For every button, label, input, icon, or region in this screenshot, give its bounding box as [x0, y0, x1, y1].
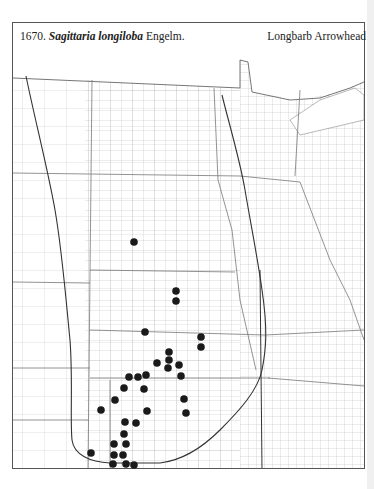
- occurrence-dot: [111, 396, 119, 404]
- distribution-map: [0, 0, 374, 489]
- occurrence-dot: [122, 460, 130, 468]
- occurrence-dot: [143, 407, 151, 415]
- occurrence-dot: [142, 371, 150, 379]
- occurrence-dot: [180, 395, 188, 403]
- occurrence-dot: [172, 297, 180, 305]
- occurrence-dot: [109, 460, 117, 468]
- occurrence-dot: [164, 364, 172, 372]
- occurrence-dot: [119, 451, 127, 459]
- occurrence-dot: [110, 451, 118, 459]
- occurrence-dot: [110, 440, 118, 448]
- occurrence-dot: [97, 406, 105, 414]
- occurrence-dot: [122, 440, 130, 448]
- occurrence-dot: [182, 409, 190, 417]
- occurrence-dot: [140, 385, 148, 393]
- page-edge: [367, 0, 374, 489]
- occurrence-dot: [120, 384, 128, 392]
- map-layers: [13, 60, 364, 470]
- occurrence-dot: [130, 461, 138, 469]
- land-plains: [85, 80, 240, 470]
- occurrence-dot: [141, 328, 149, 336]
- occurrence-dot: [177, 372, 185, 380]
- occurrence-dot: [165, 348, 173, 356]
- occurrence-dot: [165, 356, 173, 364]
- occurrence-dot: [132, 419, 140, 427]
- occurrence-dot: [172, 287, 180, 295]
- occurrence-dot: [197, 333, 205, 341]
- occurrence-dot: [120, 430, 128, 438]
- occurrence-dot: [125, 373, 133, 381]
- occurrence-dot: [134, 373, 142, 381]
- occurrence-dot: [153, 359, 161, 367]
- occurrence-dot: [197, 343, 205, 351]
- occurrence-dot: [130, 238, 138, 246]
- occurrence-dot: [121, 418, 129, 426]
- occurrence-dot: [175, 361, 183, 369]
- occurrence-dot: [87, 449, 95, 457]
